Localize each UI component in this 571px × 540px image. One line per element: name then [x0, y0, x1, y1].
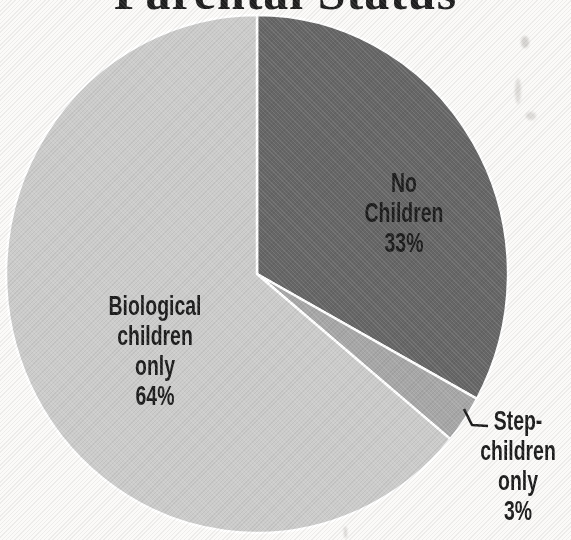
label-no-children: No Children 33% — [346, 168, 461, 258]
scan-smudge — [521, 36, 529, 48]
label-line: Biological — [97, 291, 212, 321]
label-step-children: Step- children only 3% — [460, 406, 571, 526]
label-line: 64% — [97, 381, 212, 411]
label-line: 3% — [460, 496, 571, 526]
label-biological-children: Biological children only 64% — [97, 291, 212, 411]
scanned-pie-chart-page: { "title": "Parental Status", "chart_dat… — [0, 0, 571, 540]
label-line: only — [97, 351, 212, 381]
label-line: only — [460, 466, 571, 496]
label-line: 33% — [346, 228, 461, 258]
label-line: Children — [346, 198, 461, 228]
label-line: children — [460, 436, 571, 466]
label-line: Step- — [460, 406, 571, 436]
scan-smudge — [515, 78, 521, 104]
scan-smudge — [526, 112, 536, 120]
scan-smudge — [344, 527, 347, 538]
label-line: No — [346, 168, 461, 198]
label-line: children — [97, 321, 212, 351]
